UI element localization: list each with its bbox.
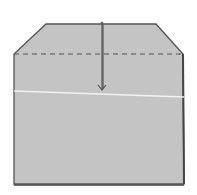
- paper-shape: [14, 24, 184, 184]
- right-edge-shadow: [183, 54, 184, 184]
- origami-diagram: [0, 0, 197, 195]
